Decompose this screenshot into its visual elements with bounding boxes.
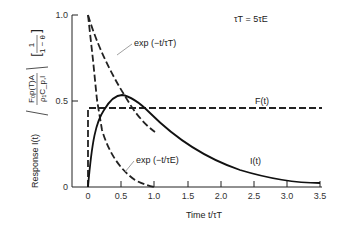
svg-text:1: 1 — [27, 42, 36, 47]
x-tick-label: 0.5 — [115, 191, 128, 201]
series-exp-tauT — [88, 15, 155, 132]
svg-text:F₀p(T)A: F₀p(T)A — [27, 74, 36, 103]
x-tick-label: 2.5 — [248, 191, 261, 201]
x-tick-label: 3.0 — [281, 191, 294, 201]
y-tick-label: 1.0 — [55, 10, 68, 20]
x-ticks: 0 0.5 1.0 1.5 2.0 2.5 3.0 3.5 — [85, 181, 326, 201]
x-tick-label: 2.0 — [215, 191, 228, 201]
y-ticks: 1.0 0.5 0 — [55, 10, 78, 192]
y-tick-label: 0 — [63, 182, 68, 192]
label-exp-tauT: exp (−t/τT) — [134, 38, 176, 48]
svg-text:1 − θ: 1 − θ — [38, 34, 47, 53]
x-tick-label: 3.5 — [314, 191, 327, 201]
leader-exp-tauT — [117, 44, 132, 55]
x-axis-title: Time t/τT — [186, 210, 223, 220]
series-F — [88, 108, 322, 187]
x-tick-label: 1.0 — [148, 191, 161, 201]
svg-text:ρ₁C_p,l: ρ₁C_p,l — [38, 76, 47, 102]
label-I: I(t) — [250, 156, 261, 166]
svg-text:Response I(t): Response I(t) — [30, 134, 40, 188]
y-axis-title: Response I(t) F₀p(T)A ρ₁C_p,l [ 1 1 − θ … — [26, 29, 48, 188]
x-tick-label: 0 — [85, 191, 90, 201]
y-tick-label: 0.5 — [55, 96, 68, 106]
chart: 1.0 0.5 0 0 0.5 1.0 1.5 2.0 2.5 3.0 3.5 … — [0, 0, 344, 226]
leader-exp-tauE — [125, 161, 134, 172]
label-exp-tauE: exp (−t/τE) — [136, 155, 179, 165]
svg-text:]: ] — [28, 29, 43, 33]
label-F: F(t) — [255, 96, 269, 106]
annotation-tau-ratio: τT = 5τE — [234, 14, 268, 24]
x-tick-label: 1.5 — [182, 191, 195, 201]
